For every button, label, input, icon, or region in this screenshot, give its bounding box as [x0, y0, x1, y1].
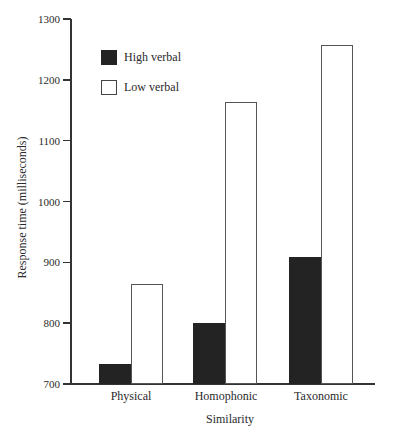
y-tick-label: 800 [10, 317, 60, 329]
y-tick-label: 1200 [10, 74, 60, 86]
y-axis-title: Response time (milliseconds) [15, 98, 30, 318]
category-label-taxonomic: Taxonomic [271, 389, 371, 404]
y-tick [63, 262, 71, 264]
legend-swatch-low-verbal [101, 80, 117, 95]
bar-high-verbal-physical [99, 364, 131, 384]
category-label-physical: Physical [81, 389, 181, 404]
y-tick [63, 322, 71, 324]
bar-high-verbal-homophonic [193, 323, 225, 384]
legend-label-low-verbal: Low verbal [124, 80, 179, 95]
y-tick-label: 1000 [10, 196, 60, 208]
y-tick-label: 1100 [10, 135, 60, 147]
legend-label-high-verbal: High verbal [124, 50, 181, 65]
y-tick [63, 383, 71, 385]
y-tick [63, 79, 71, 81]
y-tick-label: 700 [10, 378, 60, 390]
y-tick-label: 1300 [10, 13, 60, 25]
bar-low-verbal-physical [131, 284, 163, 384]
y-tick-label: 900 [10, 256, 60, 268]
x-axis-title: Similarity [180, 412, 280, 427]
bar-chart: Response time (milliseconds) 70080090010… [0, 0, 394, 443]
y-tick [63, 140, 71, 142]
y-tick [63, 18, 71, 20]
legend-swatch-high-verbal [101, 50, 117, 65]
category-label-homophonic: Homophonic [176, 389, 276, 404]
bar-low-verbal-homophonic [225, 102, 257, 384]
bar-low-verbal-taxonomic [321, 45, 353, 384]
y-tick [63, 201, 71, 203]
bar-high-verbal-taxonomic [289, 257, 321, 384]
